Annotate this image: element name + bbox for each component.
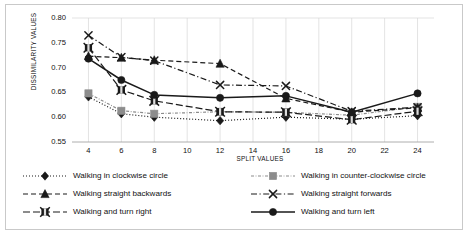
legend-key-diamond-icon [22,169,68,183]
x-tick-label: 14 [241,146,265,155]
x-tick-label: 24 [406,146,430,155]
legend-key-x-icon [250,187,296,201]
gridlines [88,18,417,142]
legend-key-circle-icon [250,205,296,219]
legend-item[interactable]: Walking in counter-clockwise circle [250,168,426,184]
y-tick-label: 0.70 [38,63,66,72]
chart-figure: DISSIMILARITY VALUES SPLIT VALUES 0.550.… [0,0,469,235]
y-tick-label: 0.65 [38,87,66,96]
x-tick-label: 20 [340,146,364,155]
x-tick-label: 22 [373,146,397,155]
x-tick-label: 10 [175,146,199,155]
x-tick-label: 6 [109,146,133,155]
legend-key-triangle-icon [22,187,68,201]
y-tick-label: 0.60 [38,112,66,121]
x-tick-label: 18 [307,146,331,155]
x-tick-label: 12 [208,146,232,155]
y-axis-title: DISSIMILARITY VALUES [30,0,37,107]
legend-label: Walking in clockwise circle [73,172,168,180]
legend-label: Walking and turn right [73,208,151,216]
legend-label: Walking in counter-clockwise circle [301,172,426,180]
x-tick-label: 8 [142,146,166,155]
x-axis-title: SPLIT VALUES [60,155,460,162]
x-tick-label: 16 [274,146,298,155]
legend-key-x-box-icon [22,205,68,219]
legend-label: Walking straight backwards [73,190,171,198]
legend-key-square-icon [250,169,296,183]
legend-item[interactable]: Walking and turn right [22,204,151,220]
x-tick-label: 4 [76,146,100,155]
legend-label: Walking and turn left [301,208,374,216]
legend-item[interactable]: Walking in clockwise circle [22,168,168,184]
legend-item[interactable]: Walking straight forwards [250,186,392,202]
chart-legend: Walking in clockwise circleWalking in co… [22,168,450,224]
y-tick-label: 0.75 [38,38,66,47]
y-tick-label: 0.55 [38,137,66,146]
legend-item[interactable]: Walking and turn left [250,204,374,220]
legend-label: Walking straight forwards [301,190,392,198]
y-tick-label: 0.80 [38,13,66,22]
legend-item[interactable]: Walking straight backwards [22,186,171,202]
